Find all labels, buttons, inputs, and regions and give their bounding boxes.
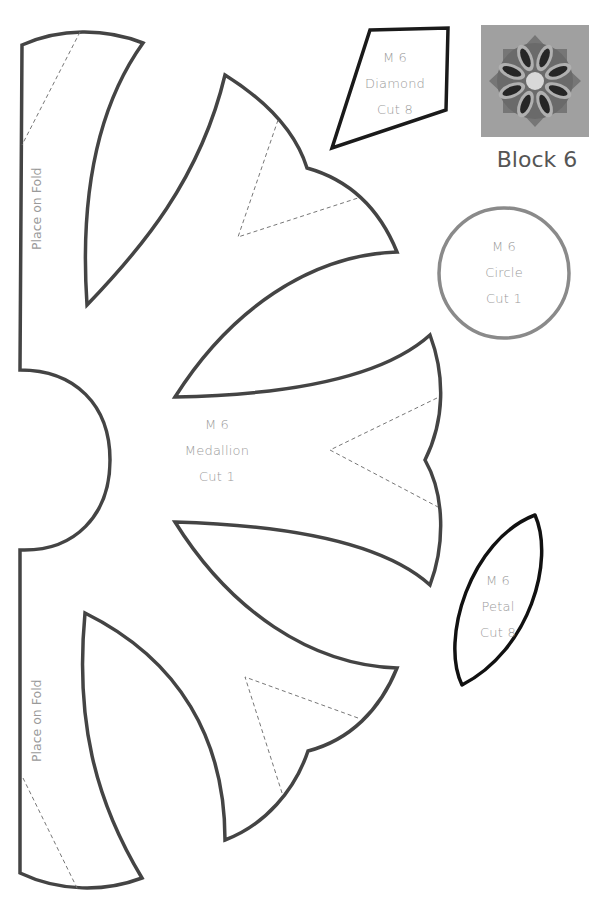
bottom-strip-guide bbox=[23, 778, 78, 890]
circle-name: Circle bbox=[464, 260, 544, 286]
fold-label-bottom: Place on Fold bbox=[29, 679, 44, 762]
circle-cut: Cut 1 bbox=[464, 286, 544, 312]
medallion-code: M 6 bbox=[172, 412, 262, 438]
petal-label: M 6 Petal Cut 8 bbox=[468, 568, 528, 646]
diamond-label: M 6 Diamond Cut 8 bbox=[355, 45, 435, 123]
top-strip-guide bbox=[22, 32, 80, 145]
fold-label-top: Place on Fold bbox=[29, 167, 44, 250]
medallion-label: M 6 Medallion Cut 1 bbox=[172, 412, 262, 490]
petal-code: M 6 bbox=[468, 568, 528, 594]
rosette-icon bbox=[481, 25, 589, 137]
circle-code: M 6 bbox=[464, 234, 544, 260]
block-title: Block 6 bbox=[482, 147, 592, 172]
petal-cut: Cut 8 bbox=[468, 620, 528, 646]
medallion-name: Medallion bbox=[172, 438, 262, 464]
diamond-name: Diamond bbox=[355, 71, 435, 97]
circle-label: M 6 Circle Cut 1 bbox=[464, 234, 544, 312]
diamond-cut: Cut 8 bbox=[355, 97, 435, 123]
diamond-code: M 6 bbox=[355, 45, 435, 71]
petal2-guide bbox=[330, 398, 438, 507]
petal-name: Petal bbox=[468, 594, 528, 620]
petal1-guide bbox=[238, 120, 358, 237]
block-preview-image bbox=[481, 25, 589, 137]
medallion-cut: Cut 1 bbox=[172, 464, 262, 490]
